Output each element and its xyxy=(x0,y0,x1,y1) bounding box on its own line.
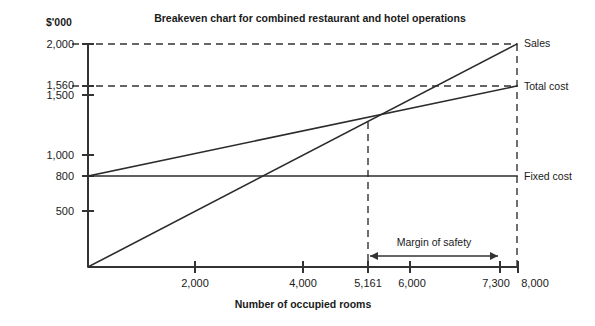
y-tick-label-500: 500 xyxy=(56,205,74,217)
series-line-total-cost xyxy=(88,86,517,176)
margin-of-safety-arrow xyxy=(370,252,498,260)
series-label-total-cost: Total cost xyxy=(524,80,568,92)
x-tick-label-7300: 7,300 xyxy=(482,277,510,289)
series-label-sales: Sales xyxy=(524,37,550,49)
y-tick-label-1500: 1,500 xyxy=(46,89,74,101)
x-tick-label-4000: 4,000 xyxy=(289,277,317,289)
y-tick-label-800: 800 xyxy=(56,170,74,182)
x-tick-label-5161: 5,161 xyxy=(354,277,382,289)
series-line-sales xyxy=(88,44,517,267)
x-tick-label-8000: 8,000 xyxy=(521,277,549,289)
chart-canvas: Breakeven chart for combined restaurant … xyxy=(0,0,595,326)
y-tick-label-2000: 2,000 xyxy=(46,38,74,50)
y-tick-label-1000: 1,000 xyxy=(46,149,74,161)
breakeven-chart: Breakeven chart for combined restaurant … xyxy=(0,0,595,326)
x-tick-label-6000: 6,000 xyxy=(398,277,426,289)
y-axis-unit-label: $'000 xyxy=(46,16,72,28)
chart-title: Breakeven chart for combined restaurant … xyxy=(154,12,466,24)
x-tick-label-2000: 2,000 xyxy=(181,277,209,289)
x-axis-title: Number of occupied rooms xyxy=(235,298,372,310)
annotation-label-margin-of-safety: Margin of safety xyxy=(397,236,472,248)
series-label-fixed-cost: Fixed cost xyxy=(524,170,572,182)
